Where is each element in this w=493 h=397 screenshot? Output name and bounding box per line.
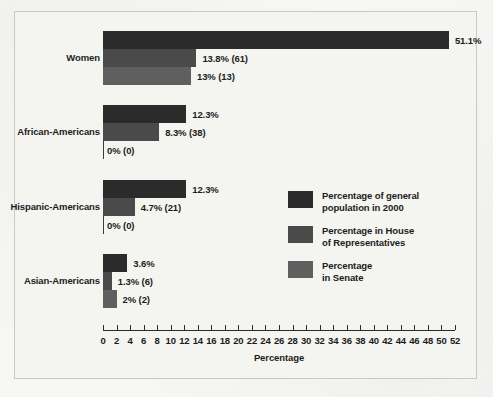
legend-item-2: Percentage in Senate — [288, 260, 419, 283]
x-tick — [238, 325, 239, 330]
bar-0-1 — [103, 49, 196, 67]
bar-value-label: 51.1% — [455, 35, 481, 46]
bar-value-label: 1.3% (6) — [118, 276, 153, 287]
chart-screenshot: 51.1%13.8% (61)13% (13)Women12.3%8.3% (3… — [0, 0, 493, 397]
bar-3-0 — [103, 254, 127, 272]
legend-item-1: Percentage in House of Representatives — [288, 225, 419, 248]
bar-0-2 — [103, 67, 191, 85]
x-tick — [455, 325, 456, 330]
category-label-2: Hispanic-Americans — [10, 201, 100, 212]
legend-label-0: Percentage of general population in 2000 — [322, 190, 419, 213]
bar-value-label: 3.6% — [133, 258, 154, 269]
x-tick — [130, 325, 131, 330]
x-tick — [279, 325, 280, 330]
bar-value-label: 8.3% (38) — [165, 127, 205, 138]
legend-label-1: Percentage in House of Representatives — [322, 225, 414, 248]
bar-0-0 — [103, 31, 449, 49]
bar-2-2 — [103, 216, 104, 234]
bar-value-label: 4.7% (21) — [141, 202, 181, 213]
bar-3-1 — [103, 272, 112, 290]
bar-value-label: 12.3% — [192, 184, 218, 195]
bar-1-2 — [103, 141, 104, 159]
x-tick — [225, 325, 226, 330]
bar-1-1 — [103, 123, 159, 141]
bar-value-label: 0% (0) — [107, 145, 134, 156]
x-tick — [374, 325, 375, 330]
legend-swatch-2 — [288, 261, 313, 278]
legend-swatch-0 — [288, 191, 313, 208]
bar-3-2 — [103, 290, 117, 308]
x-tick — [117, 325, 118, 330]
x-tick — [198, 325, 199, 330]
x-tick — [157, 325, 158, 330]
x-tick — [211, 325, 212, 330]
x-tick — [441, 325, 442, 330]
chart-legend: Percentage of general population in 2000… — [288, 190, 419, 295]
category-label-3: Asian-Americans — [24, 275, 100, 286]
x-tick — [414, 325, 415, 330]
x-tick — [171, 325, 172, 330]
bar-value-label: 0% (0) — [107, 220, 134, 231]
x-tick — [320, 325, 321, 330]
x-tick — [103, 325, 104, 330]
x-tick — [360, 325, 361, 330]
bar-2-1 — [103, 198, 135, 216]
x-tick — [184, 325, 185, 330]
x-tick — [428, 325, 429, 330]
bar-1-0 — [103, 105, 186, 123]
x-axis-title: Percentage — [103, 352, 455, 363]
legend-swatch-1 — [288, 226, 313, 243]
bar-value-label: 13.8% (61) — [202, 53, 247, 64]
category-label-1: African-Americans — [17, 126, 100, 137]
legend-item-0: Percentage of general population in 2000 — [288, 190, 419, 213]
x-tick — [293, 325, 294, 330]
x-tick — [333, 325, 334, 330]
x-tick — [401, 325, 402, 330]
x-tick — [144, 325, 145, 330]
bar-value-label: 12.3% — [192, 109, 218, 120]
bar-2-0 — [103, 180, 186, 198]
x-axis-line — [103, 330, 455, 331]
x-tick — [252, 325, 253, 330]
bar-value-label: 13% (13) — [197, 71, 235, 82]
x-tick — [265, 325, 266, 330]
x-tick-label: 52 — [445, 335, 465, 346]
x-tick — [387, 325, 388, 330]
category-label-0: Women — [66, 52, 100, 63]
bar-value-label: 2% (2) — [123, 294, 150, 305]
legend-label-2: Percentage in Senate — [322, 260, 372, 283]
x-tick — [306, 325, 307, 330]
x-tick — [347, 325, 348, 330]
